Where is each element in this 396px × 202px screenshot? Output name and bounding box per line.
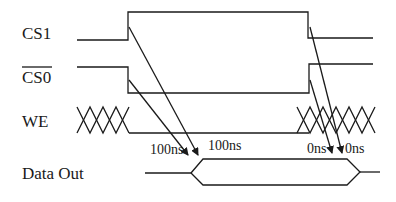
data-out-waveform (145, 159, 380, 185)
signal-label-cs1: CS1 (22, 24, 51, 43)
signal-label-we: WE (22, 112, 48, 131)
annotation-100ns-left: 100ns (150, 142, 183, 157)
signal-label-data-out: Data Out (22, 164, 84, 183)
signal-label-cs0: CS0 (22, 68, 51, 87)
timing-diagram: CS1 CS0 WE Data Out 100ns 100ns 0ns 0ns (0, 0, 396, 202)
arrow-cs1-to-data (129, 27, 198, 155)
we-waveform (77, 107, 375, 133)
annotation-0ns-left: 0ns (307, 141, 326, 156)
cs1-waveform (77, 12, 373, 40)
annotation-100ns-right: 100ns (208, 138, 241, 153)
annotation-0ns-right: 0ns (345, 141, 364, 156)
cs0-waveform (77, 64, 373, 93)
